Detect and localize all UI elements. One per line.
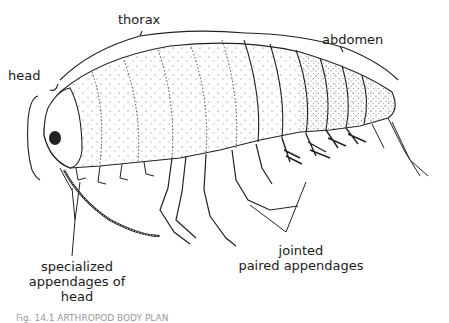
head-brace-tip (50, 84, 58, 90)
specialized-appendages-label: specialized appendages of head (22, 259, 132, 304)
eye (49, 131, 61, 145)
leader-specialized (72, 182, 80, 256)
specialized-line-1: specialized (22, 259, 132, 274)
specialized-line-3: head (22, 289, 132, 304)
leader-jointed (250, 182, 306, 232)
abdomen-label: abdomen (322, 32, 383, 47)
jointed-appendages-label: jointed paired appendages (236, 243, 366, 273)
jointed-line-2: paired appendages (236, 258, 366, 273)
specialized-line-2: appendages of (22, 274, 132, 289)
jointed-line-1: jointed (236, 243, 366, 258)
thorax-label: thorax (118, 12, 160, 27)
head-brace (28, 96, 41, 180)
figure-caption: Fig. 14.1 ARTHROPOD BODY PLAN (16, 313, 168, 323)
head-label: head (8, 68, 40, 83)
